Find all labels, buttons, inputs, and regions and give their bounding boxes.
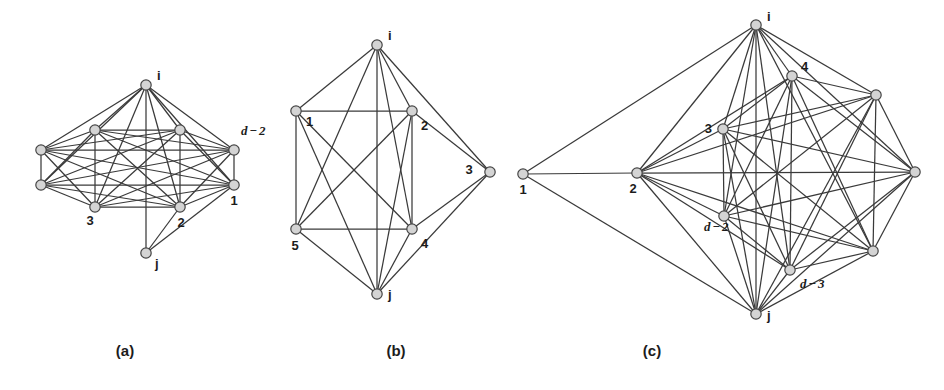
graph-edge — [873, 172, 915, 251]
graph-node-d-2 — [229, 145, 239, 155]
graph-node-j — [141, 248, 151, 258]
node-label: d−2 — [241, 123, 266, 138]
graph-edge — [724, 216, 756, 314]
graph-figure: i321d−2j(a)i12345j(b)i1234d−3d−2j(c) — [0, 0, 944, 390]
node-label: i — [767, 9, 771, 24]
graph-node-i — [372, 40, 382, 50]
node-label: 4 — [421, 236, 429, 251]
graph-node — [868, 246, 878, 256]
graph-edge — [180, 185, 234, 207]
graph-edge — [41, 150, 180, 207]
node-label: j — [766, 308, 771, 323]
graph-edge — [792, 76, 873, 251]
graph-node-3 — [485, 167, 495, 177]
node-label: 2 — [629, 181, 636, 196]
graph-edge — [523, 25, 756, 174]
graph-edge — [723, 25, 756, 129]
graph-edge — [523, 174, 756, 314]
node-layer: i1234d−3d−2j — [518, 9, 920, 323]
node-label: j — [154, 256, 159, 271]
graph-edge — [377, 172, 490, 294]
node-label: d−3 — [800, 276, 825, 291]
graph-node — [36, 180, 46, 190]
graph-node-2 — [632, 168, 642, 178]
node-label: i — [157, 68, 161, 83]
node-label: 5 — [291, 238, 298, 253]
graph-edge — [146, 185, 234, 253]
graph-edge — [637, 173, 756, 314]
graph-edge — [637, 25, 756, 173]
graph-edge — [412, 172, 490, 229]
node-label: 1 — [306, 114, 313, 129]
graph-node — [36, 145, 46, 155]
node-label: 3 — [705, 121, 712, 136]
graph-node-1 — [291, 106, 301, 116]
node-layer: i12345j — [291, 28, 495, 302]
graph-edge — [296, 45, 377, 111]
graph-node-2 — [407, 106, 417, 116]
node-label: 1 — [519, 182, 526, 197]
edge-layer — [41, 85, 234, 253]
panel-caption-c: (c) — [643, 342, 661, 359]
graph-edge — [41, 130, 180, 185]
node-label: i — [388, 28, 392, 43]
node-label: j — [387, 287, 392, 302]
graph-edge — [756, 25, 915, 172]
node-label: 2 — [421, 118, 428, 133]
graph-node-i — [141, 80, 151, 90]
graph-edge — [637, 173, 873, 251]
graph-node-4 — [787, 71, 797, 81]
graph-node-5 — [291, 224, 301, 234]
graph-edge — [95, 130, 234, 150]
panel-caption-a: (a) — [116, 342, 134, 359]
graph-edge — [146, 85, 180, 130]
graph-node-1 — [229, 180, 239, 190]
graph-node-1 — [518, 169, 528, 179]
graph-node — [175, 125, 185, 135]
node-label: 1 — [230, 193, 237, 208]
graph-edge — [41, 130, 180, 150]
graph-node-4 — [407, 224, 417, 234]
panel-b: i12345j(b) — [291, 28, 495, 359]
graph-node — [90, 125, 100, 135]
node-label: 3 — [465, 162, 472, 177]
graph-node — [871, 90, 881, 100]
graph-edge — [637, 173, 724, 216]
node-label: 4 — [801, 59, 809, 74]
graph-edge — [523, 173, 637, 174]
edge-layer — [296, 45, 490, 294]
figure-canvas: i321d−2j(a)i12345j(b)i1234d−3d−2j(c) — [0, 0, 944, 390]
graph-edge — [41, 85, 146, 150]
panel-caption-b: (b) — [386, 342, 405, 359]
graph-edge — [723, 129, 724, 216]
graph-node — [910, 167, 920, 177]
graph-node-i — [751, 20, 761, 30]
graph-node-3 — [90, 202, 100, 212]
graph-node-j — [751, 309, 761, 319]
edge-layer — [523, 25, 915, 314]
graph-edge — [377, 45, 490, 172]
panel-a: i321d−2j(a) — [36, 68, 266, 359]
graph-node-d-3 — [785, 265, 795, 275]
panel-c: i1234d−3d−2j(c) — [518, 9, 920, 359]
node-label: 3 — [86, 213, 93, 228]
graph-edge — [146, 85, 234, 185]
graph-edge — [180, 130, 234, 150]
graph-node-j — [372, 289, 382, 299]
graph-edge — [876, 95, 915, 172]
graph-edge — [296, 229, 377, 294]
graph-node-2 — [175, 202, 185, 212]
graph-node-3 — [718, 124, 728, 134]
node-label: 2 — [177, 215, 184, 230]
node-label: d−2 — [704, 219, 729, 234]
graph-edge — [724, 95, 876, 216]
graph-edge — [873, 95, 876, 251]
graph-edge — [41, 185, 95, 207]
